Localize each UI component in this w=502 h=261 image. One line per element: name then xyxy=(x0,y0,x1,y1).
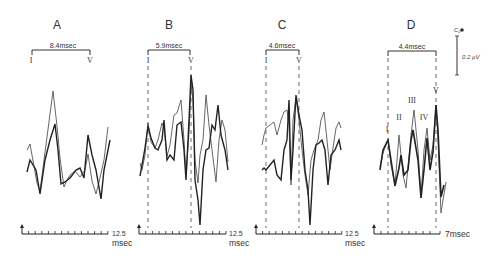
x-unit-label: msec xyxy=(345,238,366,248)
interval-bracket xyxy=(266,50,299,55)
x-end-label: 12.5 xyxy=(112,230,126,237)
panel-a: A 8.4msec I V 12.5 msec xyxy=(20,18,133,248)
x-unit-label: msec xyxy=(229,238,250,248)
x-end-label: 7msec xyxy=(445,229,471,239)
interval-label: 4.6msec xyxy=(269,42,296,49)
x-axis: 12.5 msec xyxy=(254,224,366,248)
marker-start: I xyxy=(30,56,33,65)
marker-end: V xyxy=(188,56,194,65)
panel-c-title: C xyxy=(278,18,287,32)
interval-bracket xyxy=(388,51,436,56)
panel-b-title: B xyxy=(165,18,173,32)
panel-c: C 4.6msec I V 12.5 msec xyxy=(254,18,366,248)
electrode-dot-icon xyxy=(460,28,464,32)
x-axis: 12.5 msec xyxy=(20,224,133,248)
interval-label: 8.4msec xyxy=(50,42,77,49)
scale-value-label: 0.2 µV xyxy=(462,54,480,60)
interval-label: 4.4msec xyxy=(399,43,426,50)
x-unit-label: msec xyxy=(112,238,133,248)
figure: A 8.4msec I V 12.5 msec B xyxy=(0,0,502,261)
panel-a-title: A xyxy=(53,18,61,32)
interval-label: 5.9msec xyxy=(156,42,183,49)
panel-d-title: D xyxy=(407,18,416,32)
panel-b: B 5.9msec I V 12.5 msec xyxy=(137,18,250,248)
wave-label-ii: II xyxy=(396,113,402,122)
wave-label-i: I xyxy=(386,125,389,134)
marker-start: I xyxy=(147,56,150,65)
trace-1 xyxy=(27,91,108,194)
marker-end: V xyxy=(296,56,302,65)
marker-end: V xyxy=(87,56,93,65)
x-axis: 7msec xyxy=(372,224,471,239)
trace-2 xyxy=(380,105,444,198)
x-end-label: 12.5 xyxy=(229,230,243,237)
x-axis: 12.5 msec xyxy=(137,224,250,248)
trace-1 xyxy=(140,85,228,183)
wave-label-iv: IV xyxy=(420,113,429,122)
interval-bracket xyxy=(32,50,90,55)
x-end-label: 12.5 xyxy=(345,230,359,237)
marker-start: I xyxy=(265,56,268,65)
panel-d: D 4.4msec I II III IV V 7msec xyxy=(372,18,480,239)
wave-label-iii: III xyxy=(408,96,416,105)
wave-label-v: V xyxy=(433,86,439,95)
interval-bracket xyxy=(148,50,190,55)
scale-bar: C₂ 0.2 µV xyxy=(454,27,480,75)
trace-2 xyxy=(140,75,228,225)
